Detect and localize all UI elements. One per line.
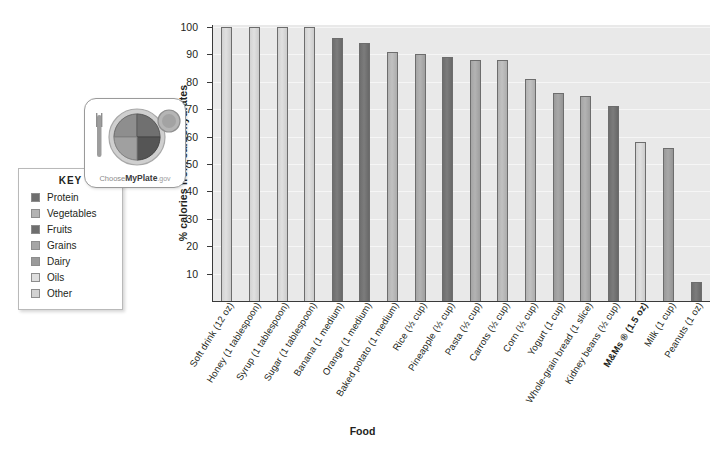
y-axis-tick-label: 20 [186, 240, 198, 252]
bar-slot [655, 25, 683, 301]
legend-swatch [31, 193, 40, 202]
legend-item-label: Dairy [47, 256, 70, 267]
bar-slot [461, 25, 489, 301]
bar-slot [268, 25, 296, 301]
legend-item-label: Vegetables [47, 208, 97, 219]
bar [470, 60, 481, 301]
bar-slot [572, 25, 600, 301]
myplate-caption-name: MyPlate [125, 173, 157, 183]
bar [277, 27, 288, 301]
legend-item-label: Protein [47, 192, 79, 203]
legend-swatch [31, 257, 40, 266]
legend-item-dairy: Dairy [19, 253, 122, 269]
legend-item-protein: Protein [19, 189, 122, 205]
y-axis-tick-label: 60 [186, 131, 198, 143]
bar-slot [600, 25, 628, 301]
bar [221, 27, 232, 301]
myplate-caption-choose: Choose [99, 174, 125, 183]
bar [387, 52, 398, 301]
myplate-caption-gov: .gov [157, 175, 170, 182]
fork-icon [96, 113, 102, 157]
legend-swatch [31, 209, 40, 218]
myplate-plate-icon [85, 99, 185, 171]
y-axis-tick-label: 80 [186, 76, 198, 88]
bar-slot [213, 25, 241, 301]
plot-area: 102030405060708090100 [213, 25, 710, 301]
y-axis-tick-label: 30 [186, 213, 198, 225]
legend-swatch [31, 225, 40, 234]
legend-item-label: Grains [47, 240, 76, 251]
bar-slot [296, 25, 324, 301]
bar-slot [351, 25, 379, 301]
bar-slot [241, 25, 269, 301]
legend-swatch [31, 273, 40, 282]
myplate-caption: ChooseMyPlate.gov [85, 173, 185, 183]
bar-slot [627, 25, 655, 301]
legend-item-label: Oils [47, 272, 64, 283]
bar-slot [682, 25, 710, 301]
y-axis-tick-label: 40 [186, 185, 198, 197]
bar-slot [489, 25, 517, 301]
legend-item-oils: Oils [19, 269, 122, 285]
y-axis-tick-label: 10 [186, 268, 198, 280]
bar [442, 57, 453, 301]
bar-slot [434, 25, 462, 301]
bar [580, 96, 591, 302]
bar-slot [323, 25, 351, 301]
legend-swatch [31, 289, 40, 298]
legend-item-label: Other [47, 288, 72, 299]
myplate-logo: ChooseMyPlate.gov [84, 98, 186, 188]
bar [359, 43, 370, 301]
bar-slot [517, 25, 545, 301]
bar-slot [406, 25, 434, 301]
legend-item-label: Fruits [47, 224, 72, 235]
bar-slot [379, 25, 407, 301]
bar [663, 148, 674, 301]
bar [525, 79, 536, 301]
bar [691, 282, 702, 301]
bar-series [213, 25, 710, 301]
y-axis-tick-label: 100 [180, 21, 198, 33]
bar [304, 27, 315, 301]
bar-slot [544, 25, 572, 301]
x-axis-title: Food [0, 425, 725, 437]
x-axis-line [212, 301, 710, 302]
bar [249, 27, 260, 301]
legend-item-grains: Grains [19, 237, 122, 253]
legend-item-fruits: Fruits [19, 221, 122, 237]
legend-key-box: KEY ProteinVegetablesFruitsGrainsDairyOi… [18, 168, 123, 310]
legend-item-vegetables: Vegetables [19, 205, 122, 221]
x-axis-tick-label: Banana (1 medium) [291, 300, 345, 378]
x-axis-tick-labels: Soft drink (12 oz)Honey (1 tablespoon)Sy… [213, 303, 710, 423]
y-axis-tick-label: 70 [186, 103, 198, 115]
legend-items: ProteinVegetablesFruitsGrainsDairyOilsOt… [19, 189, 122, 301]
chart-page: % calories from carbohydrates 1020304050… [0, 0, 725, 461]
legend-swatch [31, 241, 40, 250]
bar [332, 38, 343, 301]
bar [635, 142, 646, 301]
bar [553, 93, 564, 301]
bar [415, 54, 426, 301]
y-axis-tick-label: 50 [186, 158, 198, 170]
legend-item-other: Other [19, 285, 122, 301]
bar [608, 106, 619, 301]
y-axis-tick-label: 90 [186, 48, 198, 60]
bar [497, 60, 508, 301]
